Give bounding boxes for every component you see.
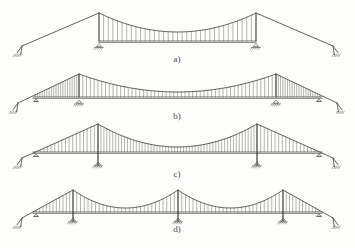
support-hatch [94, 47, 96, 49]
support-hatch [78, 104, 80, 106]
panel-label-c: c) [174, 169, 181, 179]
support-hatch [76, 222, 78, 224]
anchorage-right [332, 46, 340, 57]
anchor-hatch [336, 111, 338, 113]
support-triangle [34, 154, 38, 157]
deck [33, 97, 322, 99]
tower-right-support [271, 100, 281, 106]
deck-end-support-right [316, 154, 321, 157]
support-hatch [95, 166, 97, 168]
anchor-hatch [14, 111, 16, 113]
panel-label-d: d) [173, 224, 181, 234]
anchor-hatch [15, 54, 17, 56]
anchor-hatch [15, 166, 17, 168]
support-triangle [317, 154, 321, 157]
support-hatch [80, 104, 82, 106]
support-hatch [93, 166, 95, 168]
panel-b [9, 74, 344, 114]
deck-end-support-right [316, 214, 321, 217]
deck-end-support-left [33, 154, 38, 157]
anchor-hatch [339, 226, 341, 228]
panel-d [13, 190, 340, 229]
anchor-hatch [18, 166, 20, 168]
anchor-hatch [15, 226, 17, 228]
support-hatch [101, 166, 103, 168]
anchor-hatch [332, 226, 334, 228]
anchorage-left [13, 158, 22, 169]
hanger-group-center [83, 75, 272, 97]
hanger-group-span-1 [77, 192, 175, 212]
support-hatch [277, 104, 279, 106]
support-hatch [99, 166, 101, 168]
deck [33, 152, 322, 154]
support-hatch [253, 47, 255, 49]
anchor-hatch [337, 226, 339, 228]
anchorage-left [13, 46, 22, 57]
anchor-hatch [18, 54, 20, 56]
support-hatch [257, 47, 259, 49]
main-cable-center [79, 74, 276, 92]
anchor-hatch [335, 166, 337, 168]
support-triangle [317, 214, 321, 217]
anchor-hatch [337, 54, 339, 56]
hanger-group-center [101, 126, 254, 152]
main-cable-span-1 [73, 190, 178, 208]
support-hatch [96, 47, 98, 49]
support-triangle [96, 44, 101, 47]
suspension-bridge-figure: a) b) c) d) [0, 0, 355, 248]
support-hatch [271, 104, 273, 106]
support-hatch [286, 222, 288, 224]
anchor-hatch [16, 54, 18, 56]
side-cable-right [283, 190, 333, 218]
anchorage-right [332, 218, 340, 229]
tower-left-support [93, 162, 103, 168]
main-cable-span-2 [178, 190, 283, 208]
support-triangle [317, 99, 321, 102]
tower-left-support [94, 44, 104, 50]
hanger-group-center [104, 15, 252, 41]
anchor-hatch [339, 111, 341, 113]
support-hatch [98, 47, 100, 49]
anchorage-right [332, 158, 340, 169]
anchor-hatch [18, 226, 20, 228]
anchor-hatch [332, 166, 334, 168]
support-hatch [260, 166, 262, 168]
support-hatch [82, 104, 84, 106]
support-hatch [68, 222, 70, 224]
support-hatch [102, 47, 104, 49]
anchor-hatch [339, 54, 341, 56]
anchor-hatch [335, 226, 337, 228]
anchor-hatch [13, 226, 15, 228]
anchorage-left [13, 218, 22, 229]
support-hatch [74, 104, 76, 106]
anchor-hatch [339, 166, 341, 168]
support-hatch [72, 222, 74, 224]
anchor-hatch [13, 166, 15, 168]
panel-label-a: a) [174, 54, 181, 64]
support-triangle [273, 100, 278, 103]
anchor-hatch [9, 111, 11, 113]
anchor-hatch [11, 111, 13, 113]
main-cable-center [99, 13, 256, 32]
support-hatch [252, 166, 254, 168]
support-triangle [34, 99, 38, 102]
support-triangle [34, 214, 38, 217]
support-hatch [259, 47, 261, 49]
tower-left-support [74, 100, 84, 106]
tower-right-support [251, 44, 261, 50]
support-hatch [251, 47, 253, 49]
support-hatch [256, 166, 258, 168]
tower-right-support [252, 162, 262, 168]
anchor-hatch [13, 54, 15, 56]
anchorage-right [336, 103, 344, 114]
anchor-hatch [341, 111, 343, 113]
anchor-hatch [337, 166, 339, 168]
anchorage-left [9, 103, 18, 114]
support-hatch [275, 104, 277, 106]
deck-end-support-left [33, 99, 38, 102]
support-hatch [74, 222, 76, 224]
support-triangle [76, 100, 81, 103]
support-hatch [97, 166, 99, 168]
support-hatch [280, 222, 282, 224]
side-cable-left [22, 124, 98, 158]
